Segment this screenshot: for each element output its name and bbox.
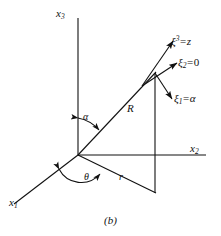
axis-label-x3: x3	[56, 8, 65, 21]
vector-label-xi3-value: z	[187, 35, 191, 47]
axis-label-x2-subscript: 2	[195, 147, 199, 156]
angle-label-theta: θ	[84, 172, 89, 182]
axis-label-x1-subscript: 1	[14, 201, 18, 210]
vector-label-xi2-value: 0	[194, 56, 200, 68]
axis-label-x2: x2	[190, 143, 199, 156]
vector-label-xi1-value: α	[190, 92, 196, 104]
axis-label-x3-subscript: 3	[61, 12, 65, 21]
length-label-R: R	[127, 103, 134, 114]
vector-xi2-arrow	[142, 63, 177, 86]
vector-label-xi3: ξ3=z	[171, 35, 191, 47]
figure-caption: (b)	[0, 214, 221, 226]
angle-theta-arc	[59, 169, 100, 183]
vector-label-xi2-equals: =	[186, 56, 193, 68]
figure-container: x3 x2 x1 α θ R r ξ3=z ξ2=0 ξ1=α (b)	[0, 0, 221, 236]
vector-label-xi3-equals: =	[179, 35, 186, 47]
vector-label-xi1-equals: =	[182, 92, 189, 104]
angle-alpha-arc	[78, 118, 99, 130]
radius-r-line	[78, 155, 156, 193]
angle-label-alpha: α	[83, 112, 88, 122]
vector-xi3-arrow	[142, 41, 173, 86]
vector-xi1-arrow	[155, 73, 172, 99]
axis-label-x1: x1	[9, 197, 18, 210]
length-label-r: r	[119, 172, 123, 182]
vector-label-xi2: ξ2=0	[178, 57, 199, 70]
vector-label-xi1: ξ1=α	[174, 93, 195, 106]
